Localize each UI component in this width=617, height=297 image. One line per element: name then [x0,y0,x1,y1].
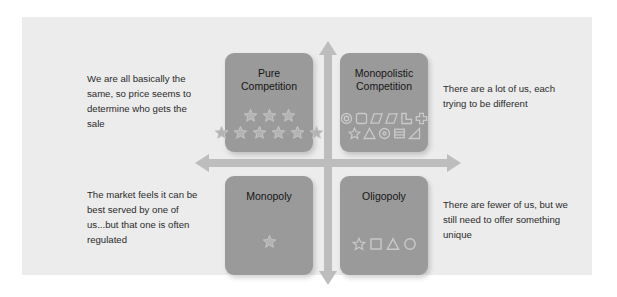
star-icon [271,125,286,140]
quadrant-title-line2: Competition [241,80,297,92]
quadrant-title-line1: Monopolistic [355,67,413,79]
star-icon [243,108,258,123]
caption-top-right: There are a lot of us, each trying to be… [443,81,568,111]
quadrant-shapes [214,108,324,140]
rounded-square-icon [355,112,368,125]
quadrant-title: Pure Competition [231,67,307,93]
quadrant-shapes [262,234,277,249]
star-icon [214,125,229,140]
shape-row [262,234,277,249]
shape-row [340,112,428,125]
caption-top-left: We are all basically the same, so price … [87,71,205,131]
star-icon [352,237,366,251]
quadrant-title-line2: Competition [356,80,412,92]
l-shape-icon [400,112,413,125]
shape-row [352,237,417,251]
quadrant-title-line1: Monopoly [246,190,292,202]
quadrant-pure-competition[interactable]: Pure Competition [225,53,313,152]
arrow-right-icon [447,154,461,172]
star-icon [262,234,277,249]
triangle-icon [386,237,400,251]
parallelogram-icon [385,112,398,125]
arrow-up-icon [319,41,337,55]
quadrant-title-line1: Oligopoly [362,190,406,202]
star-icon [309,125,324,140]
quadrant-title-line1: Pure [258,67,280,79]
star-icon [281,108,296,123]
star-icon [348,127,361,140]
quadrant-oligopoly[interactable]: Oligopoly [340,176,428,275]
triangle-icon [363,127,376,140]
slide-root: Pure Competition [0,0,617,297]
horizontal-axis-shaft [208,159,448,167]
quadrant-shapes [340,112,428,140]
circle-dot-icon [378,127,391,140]
right-triangle-icon [408,127,421,140]
circle-icon [403,237,417,251]
star-icon [262,108,277,123]
star-icon [233,125,248,140]
star-icon [252,125,267,140]
diagram-canvas: Pure Competition [22,17,592,275]
quadrant-title: Monopolistic Competition [346,67,422,93]
square-icon [369,237,383,251]
star-icon [290,125,305,140]
quadrant-monopolistic-competition[interactable]: Monopolistic Competition [340,53,428,152]
shape-row [214,125,324,140]
shape-row [348,127,421,140]
quadrant-title: Monopoly [231,190,307,203]
arrow-left-icon [195,154,209,172]
lined-rectangle-icon [393,127,406,140]
quadrant-title: Oligopoly [346,190,422,203]
arrow-down-icon [319,271,337,285]
caption-bottom-right: There are fewer of us, but we still need… [443,197,573,242]
shape-row [243,108,296,123]
cross-icon [415,112,428,125]
caption-bottom-left: The market feels it can be best served b… [87,187,207,247]
parallelogram-icon [370,112,383,125]
quadrant-monopoly[interactable]: Monopoly [225,176,313,275]
donut-icon [340,112,353,125]
quadrant-shapes [352,237,417,251]
